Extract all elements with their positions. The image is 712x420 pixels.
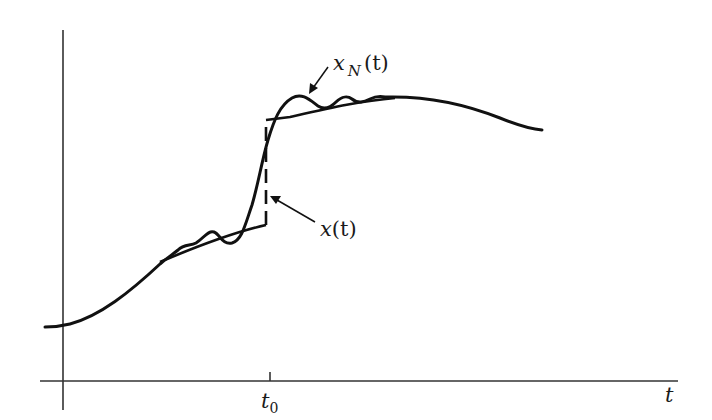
x-arrow-line	[277, 200, 315, 222]
t-axis-label: t	[665, 383, 674, 407]
x-label-main: x	[320, 217, 332, 241]
x-label-arg: (t)	[332, 217, 357, 241]
annotations	[270, 67, 328, 222]
x-N-label-main: x	[333, 51, 345, 75]
x-N-arrow-line	[313, 67, 328, 88]
x-N-label: xN(t)	[333, 51, 389, 80]
original-function-x	[160, 98, 395, 262]
x-N-curve	[45, 96, 542, 327]
x-label: x(t)	[320, 217, 357, 241]
approximation-x-N	[45, 96, 542, 327]
gibbs-diagram: xN(t) x(t) t0 t	[0, 0, 712, 420]
x-arrowhead	[270, 196, 281, 204]
t0-label-subscript: 0	[269, 400, 278, 416]
x-N-label-subscript: N	[347, 62, 362, 80]
axes	[40, 30, 678, 410]
x-N-label-arg: (t)	[364, 51, 389, 75]
t0-label: t0	[261, 389, 278, 416]
x-N-arrowhead	[309, 83, 318, 94]
